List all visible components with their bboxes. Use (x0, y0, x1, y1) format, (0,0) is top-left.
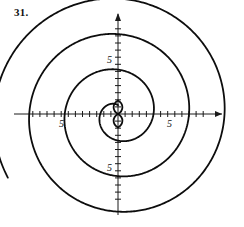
spiral-plot-svg (0, 0, 244, 227)
spiral-curve (0, 0, 225, 212)
figure-container: 31. 5 5 5 5 (0, 0, 244, 227)
x-axis-label-negative-5: 5 (59, 119, 64, 129)
x-axis-label-positive-5: 5 (167, 119, 172, 129)
y-axis-label-positive-5: 5 (107, 55, 112, 65)
y-axis-arrow-icon (115, 13, 121, 21)
x-axis-arrow-icon (215, 111, 222, 117)
y-axis-label-negative-5: 5 (107, 163, 112, 173)
problem-number-label: 31. (14, 6, 28, 18)
spiral-curve-group (0, 0, 225, 212)
